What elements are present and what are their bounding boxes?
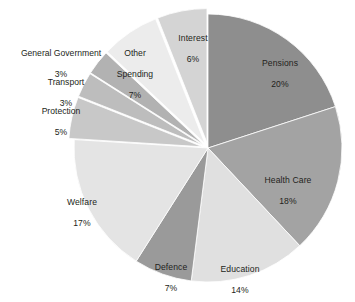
slice-label-interest-value: 6%	[163, 54, 223, 65]
slice-label-education-name: Education	[206, 264, 274, 275]
slice-label-transport-name: Transport	[33, 77, 99, 88]
slice-label-pensions-value: 20%	[243, 79, 317, 90]
slice-label-protection: Protection 5%	[27, 95, 95, 148]
slice-label-protection-value: 5%	[27, 127, 95, 138]
slice-label-welfare-name: Welfare	[52, 197, 112, 208]
slice-label-pensions: Pensions 20%	[243, 47, 317, 100]
slice-label-defence-value: 7%	[143, 283, 199, 294]
pie-chart: Pensions 20% Health Care 18% Education 1…	[0, 0, 355, 302]
slice-label-education-value: 14%	[206, 285, 274, 296]
slice-label-health-care-name: Health Care	[248, 175, 328, 186]
slice-label-health-care-value: 18%	[248, 196, 328, 207]
slice-label-general-government-name: General Government	[6, 48, 116, 59]
slice-label-other-spending-value: 7%	[104, 90, 166, 101]
slice-label-pensions-name: Pensions	[243, 58, 317, 69]
slice-label-interest: Interest 6%	[163, 22, 223, 75]
slice-label-defence-name: Defence	[143, 262, 199, 273]
slice-label-welfare: Welfare 17%	[52, 186, 112, 239]
slice-label-other-spending: Other Spending 7%	[104, 37, 166, 111]
slice-label-other-spending-name: Other	[104, 48, 166, 59]
slice-label-education: Education 14%	[206, 253, 274, 302]
slice-label-defence: Defence 7%	[143, 251, 199, 302]
slice-label-welfare-value: 17%	[52, 218, 112, 229]
slice-label-other-spending-name2: Spending	[104, 69, 166, 80]
slice-label-protection-name: Protection	[27, 106, 95, 117]
slice-label-interest-name: Interest	[163, 33, 223, 44]
slice-label-health-care: Health Care 18%	[248, 164, 328, 217]
